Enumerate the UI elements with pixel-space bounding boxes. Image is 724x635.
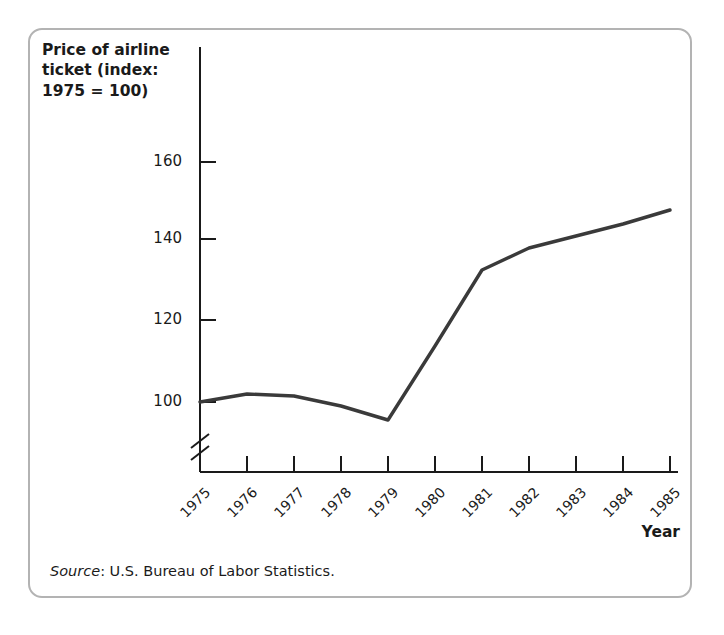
x-axis-ticks [200,456,670,472]
chart-plot-area: Price of airline ticket (index: 1975 = 1… [30,30,694,600]
y-tick-label-140: 140 [130,229,182,247]
source-label: Source [50,563,100,579]
y-tick-label-100: 100 [130,392,182,410]
source-note: Source: U.S. Bureau of Labor Statistics. [50,563,335,579]
y-axis-ticks [200,162,216,402]
source-text: : U.S. Bureau of Labor Statistics. [100,563,335,579]
y-tick-label-160: 160 [130,152,182,170]
data-series-line [200,210,670,420]
y-tick-label-120: 120 [130,310,182,328]
figure-panel: Price of airline ticket (index: 1975 = 1… [28,28,692,598]
